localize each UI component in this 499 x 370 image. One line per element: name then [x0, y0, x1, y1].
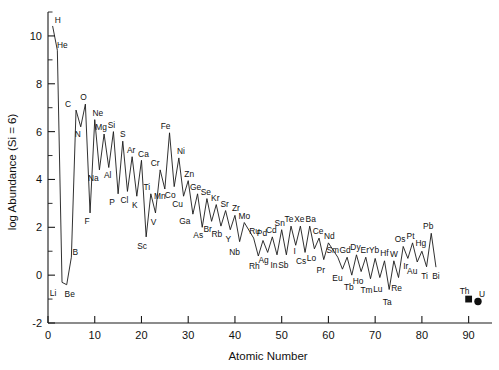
y-tick-label: 0 [36, 269, 42, 281]
element-label-as: As [193, 230, 203, 240]
element-label-cu: Cu [172, 199, 183, 209]
data-marker-th [465, 296, 472, 303]
element-label-kr: Kr [211, 193, 220, 203]
element-label-u: U [479, 289, 485, 299]
element-label-ge: Ge [190, 182, 202, 192]
element-label-v: V [151, 217, 157, 227]
x-tick-label: 10 [89, 329, 101, 341]
element-label-sc: Sc [137, 241, 147, 251]
x-tick-label: 50 [276, 329, 288, 341]
element-label-hg: Hg [416, 238, 427, 248]
element-label-ag: Ag [259, 255, 270, 265]
element-label-bi: Bi [432, 271, 440, 281]
element-label-au: Au [407, 266, 418, 276]
x-axis-title: Atomic Number [228, 350, 307, 362]
element-label-te: Te [285, 214, 294, 224]
y-tick-label: 8 [36, 78, 42, 90]
element-label-th: Th [460, 286, 470, 296]
x-tick-label: 40 [229, 329, 241, 341]
element-label-lu: Lu [373, 284, 383, 294]
element-label-er: Er [361, 245, 370, 255]
abundance-chart-figure: -202468100102030405060708090 HHeLiBeBCNO… [0, 0, 499, 370]
element-label-ga: Ga [179, 216, 191, 226]
element-label-n: N [75, 129, 81, 139]
element-label-he: He [57, 40, 68, 50]
element-label-ar: Ar [127, 145, 136, 155]
y-tick-label: 2 [36, 221, 42, 233]
element-label-os: Os [395, 234, 406, 244]
element-label-re: Re [391, 283, 402, 293]
element-label-o: O [80, 92, 87, 102]
element-label-ti: Ti [143, 182, 150, 192]
element-label-pt: Pt [407, 231, 416, 241]
element-label-fe: Fe [161, 121, 171, 131]
element-label-zn: Zn [184, 169, 194, 179]
element-label-cr: Cr [151, 158, 160, 168]
element-label-se: Se [201, 187, 212, 197]
element-label-pr: Pr [317, 265, 326, 275]
element-label-be: Be [65, 289, 76, 299]
element-label-c: C [65, 99, 71, 109]
element-label-k: K [132, 200, 138, 210]
x-tick-label: 20 [135, 329, 147, 341]
element-label-ti: Ti [421, 271, 428, 281]
element-label-tm: Tm [360, 285, 372, 295]
element-label-ni: Ni [177, 146, 185, 156]
x-tick-label: 0 [45, 329, 51, 341]
element-label-pb: Pb [423, 221, 434, 231]
element-label-mg: Mg [95, 122, 107, 132]
element-label-hf: Hf [380, 248, 389, 258]
element-label-ba: Ba [306, 214, 317, 224]
element-label-w: W [390, 249, 398, 259]
y-tick-label: 6 [36, 126, 42, 138]
element-label-ne: Ne [92, 108, 103, 118]
element-label-yb: Yb [369, 245, 380, 255]
element-label-sm: Sm [326, 245, 339, 255]
element-label-nb: Nb [229, 247, 240, 257]
element-label-gd: Gd [340, 245, 352, 255]
element-label-s: S [120, 129, 126, 139]
element-label-p: P [109, 197, 115, 207]
element-label-h: H [55, 15, 61, 25]
element-label-sr: Sr [220, 199, 229, 209]
element-label-sn: Sn [275, 218, 286, 228]
tick-labels: -202468100102030405060708090 [30, 30, 475, 341]
element-label-si: Si [108, 120, 116, 130]
y-tick-label: 10 [30, 30, 42, 42]
x-tick-label: 70 [369, 329, 381, 341]
element-label-in: In [271, 260, 278, 270]
element-label-ta: Ta [383, 297, 392, 307]
element-label-na: Na [88, 173, 99, 183]
element-label-nd: Nd [324, 231, 335, 241]
element-label-f: F [84, 216, 89, 226]
element-label-sb: Sb [278, 260, 289, 270]
element-label-mo: Mo [238, 211, 250, 221]
element-label-al: Al [104, 170, 112, 180]
y-tick-label: -2 [32, 317, 42, 329]
x-tick-label: 60 [322, 329, 334, 341]
element-label-lo: Lo [307, 253, 317, 263]
x-tick-label: 30 [182, 329, 194, 341]
x-tick-label: 90 [463, 329, 475, 341]
element-label-b: B [73, 247, 79, 257]
element-label-i: I [294, 246, 296, 256]
element-label-cs: Cs [296, 256, 306, 266]
element-label-y: Y [225, 234, 231, 244]
element-label-li: Li [50, 288, 57, 298]
element-label-eu: Eu [332, 273, 343, 283]
element-label-xe: Xe [294, 214, 305, 224]
y-axis-title: log Abundance (Si = 6) [6, 113, 18, 230]
element-label-cl: Cl [120, 195, 128, 205]
chart-canvas: -202468100102030405060708090 HHeLiBeBCNO… [0, 0, 499, 370]
element-label-ce: Ce [313, 226, 324, 236]
element-label-rb: Rb [212, 229, 223, 239]
element-label-co: Co [165, 190, 176, 200]
y-tick-label: 4 [36, 173, 42, 185]
element-labels: HHeLiBeBCNOFNeNaMgAlSiPSClArKCaScTiVCrMn… [50, 15, 485, 306]
x-tick-label: 80 [416, 329, 428, 341]
element-label-ca: Ca [138, 149, 149, 159]
